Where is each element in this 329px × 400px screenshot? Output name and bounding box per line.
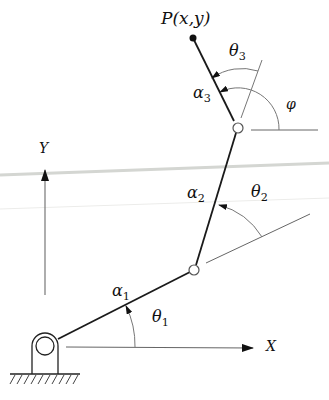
theta1-arc bbox=[126, 306, 135, 347]
theta3-arc bbox=[212, 68, 258, 78]
theta3-label: θ3 bbox=[229, 43, 246, 62]
alpha2-label: α2 bbox=[187, 185, 205, 204]
y-axis-label: Y bbox=[39, 141, 48, 155]
endpoint-label: P(x,y) bbox=[161, 10, 210, 27]
joint2-reference-line bbox=[206, 214, 310, 263]
phi-label: φ bbox=[286, 97, 296, 111]
diagram-graphics bbox=[0, 0, 329, 400]
link-3 bbox=[193, 38, 234, 121]
theta2-label: θ2 bbox=[251, 184, 268, 203]
joint-3 bbox=[233, 123, 243, 133]
fixed-base-support bbox=[10, 333, 80, 384]
alpha3-label: α3 bbox=[193, 85, 211, 104]
manipulator-diagram: P(x,y) θ3 α3 φ Y α2 θ2 α1 θ1 X bbox=[0, 0, 329, 400]
alpha1-label: α1 bbox=[112, 283, 130, 302]
x-axis bbox=[66, 347, 253, 348]
scan-artifact-lines bbox=[0, 163, 329, 209]
joint-2 bbox=[189, 265, 199, 275]
endpoint-p bbox=[190, 35, 197, 42]
x-axis-label: X bbox=[266, 339, 276, 353]
theta1-label: θ1 bbox=[152, 309, 169, 328]
theta2-arc bbox=[219, 205, 262, 237]
